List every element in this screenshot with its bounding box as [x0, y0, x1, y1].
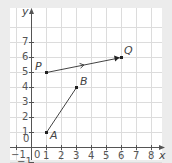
- x-tick-label: 1: [43, 151, 49, 161]
- x-tick-label: 4: [88, 151, 94, 161]
- point-label-B: B: [80, 76, 88, 87]
- y-tick-label: 6: [22, 52, 28, 62]
- y-tick-label: 2: [22, 112, 28, 122]
- x-tick-label: 5: [103, 151, 109, 161]
- y-tick-label: 5: [22, 67, 28, 77]
- x-tick-label: 7: [133, 151, 139, 161]
- y-axis-label: y: [22, 6, 29, 17]
- y-tick-label: 1: [22, 127, 28, 137]
- x-tick-label: 0: [34, 150, 40, 160]
- y-tick-label: 4: [22, 82, 28, 92]
- point-label-Q: Q: [124, 45, 133, 56]
- point-A: [45, 131, 48, 134]
- point-label-A: A: [50, 130, 58, 141]
- y-tick-label: −1: [17, 157, 32, 163]
- point-B: [75, 86, 78, 89]
- x-tick-label: 8: [148, 151, 154, 161]
- point-Q: [120, 56, 123, 59]
- point-label-P: P: [35, 61, 42, 72]
- y-tick-label: 3: [22, 97, 28, 107]
- x-tick-label: 2: [58, 151, 64, 161]
- y-tick-label: 7: [22, 37, 28, 47]
- x-tick-label: 3: [73, 151, 79, 161]
- point-P: [45, 71, 48, 74]
- x-axis-label: x: [159, 150, 166, 161]
- x-tick-label: 6: [118, 151, 124, 161]
